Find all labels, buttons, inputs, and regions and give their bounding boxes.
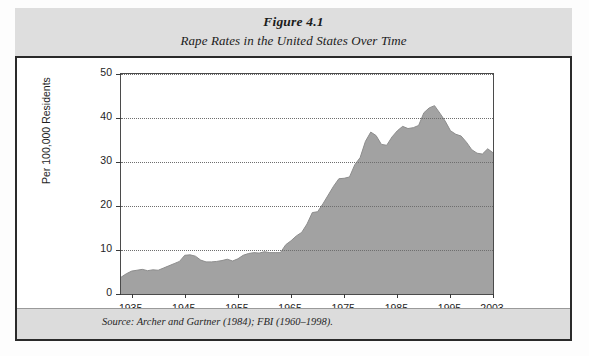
y-axis-label-40: 40: [72, 110, 112, 122]
y-axis-tick-0: [116, 294, 121, 295]
y-axis-tick-40: [116, 118, 121, 119]
y-axis-title: Per 100,000 Residents: [40, 77, 52, 184]
area-fill-path: [121, 106, 493, 294]
figure-title: Rape Rates in the United States Over Tim…: [15, 30, 572, 49]
x-axis-tick-1965: [291, 294, 292, 298]
y-axis-tick-30: [116, 162, 121, 163]
figure-caption-band: Figure 4.1 Rape Rates in the United Stat…: [15, 8, 572, 56]
x-axis-tick-1985: [397, 294, 398, 298]
gridline-20: [121, 206, 493, 207]
x-axis-tick-1935: [132, 294, 133, 298]
x-axis-tick-2003: [493, 294, 494, 298]
source-note: Source: Archer and Gartner (1984); FBI (…: [102, 316, 333, 327]
chart-region: Per 100,000 Residents 010203040501935194…: [17, 58, 570, 308]
y-axis-tick-20: [116, 206, 121, 207]
y-axis-label-30: 30: [72, 154, 112, 166]
y-axis-tick-50: [116, 74, 121, 75]
source-strip: Source: Archer and Gartner (1984); FBI (…: [17, 308, 570, 339]
plot-inner: [121, 74, 493, 294]
x-axis-tick-1995: [450, 294, 451, 298]
plot-area: [120, 73, 494, 295]
y-axis-label-50: 50: [72, 66, 112, 78]
page-background: Figure 4.1 Rape Rates in the United Stat…: [0, 0, 589, 356]
area-series: [121, 74, 493, 294]
gridline-10: [121, 250, 493, 251]
y-axis-label-0: 0: [72, 286, 112, 298]
gridline-50: [121, 74, 493, 75]
y-axis-label-20: 20: [72, 198, 112, 210]
x-axis-tick-1975: [344, 294, 345, 298]
x-axis-tick-1955: [238, 294, 239, 298]
y-axis-tick-10: [116, 250, 121, 251]
figure-number: Figure 4.1: [15, 8, 572, 30]
x-axis-tick-1945: [185, 294, 186, 298]
gridline-40: [121, 118, 493, 119]
y-axis-label-10: 10: [72, 242, 112, 254]
gridline-30: [121, 162, 493, 163]
figure-box: Per 100,000 Residents 010203040501935194…: [15, 56, 572, 341]
